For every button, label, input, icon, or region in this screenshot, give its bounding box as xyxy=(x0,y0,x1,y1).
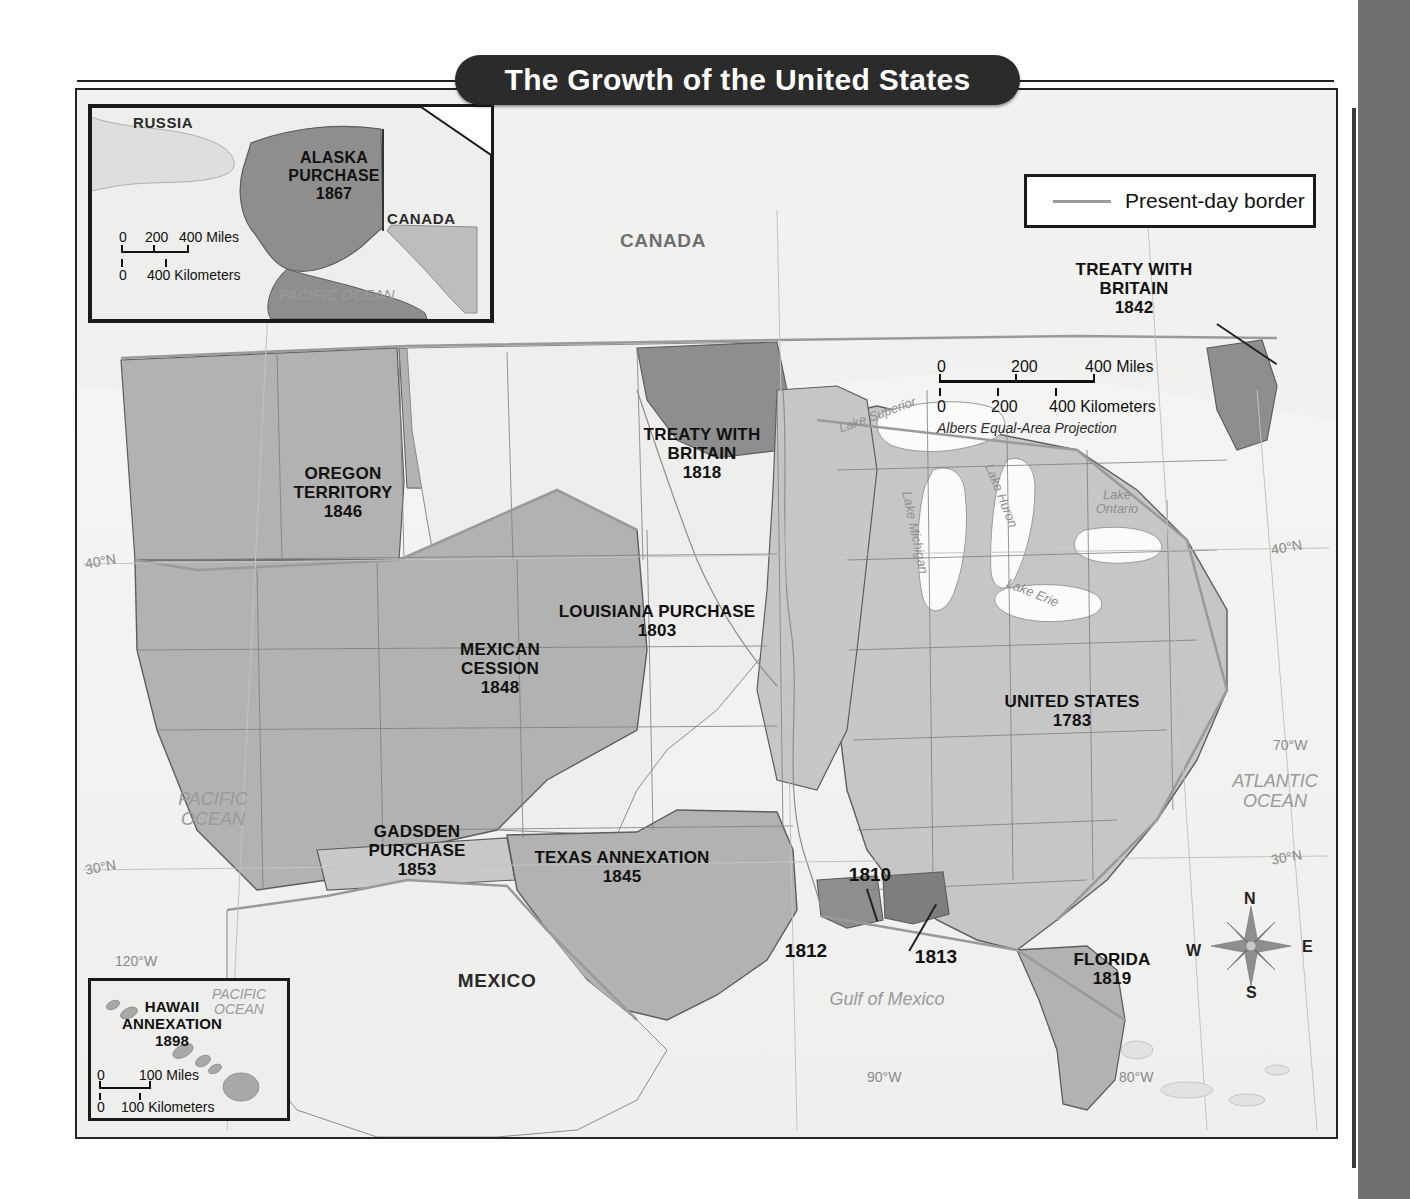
map-legend[interactable]: Present-day border xyxy=(1024,174,1316,228)
compass-south-label: S xyxy=(1246,984,1257,1002)
present-day-border-swatch-icon xyxy=(1053,200,1111,203)
title-rule-right xyxy=(1018,80,1334,82)
compass-rose: N E S W xyxy=(1186,890,1316,1002)
page-edge-divider xyxy=(1352,108,1356,1168)
scale-projection-label: Albers Equal-Area Projection xyxy=(937,420,1117,436)
hawaii-scale-bar: 0 100 Miles 0 100 Kilometers xyxy=(97,1067,247,1115)
hawaii-scale-miles-max: 100 Miles xyxy=(139,1067,199,1083)
alaska-scale-miles-max: 400 Miles xyxy=(179,229,239,245)
main-scale-bar: 0 200 400 Miles 0 200 400 Kilometers Alb… xyxy=(937,358,1167,418)
scale-km-mid: 200 xyxy=(991,398,1018,416)
alaska-scale-miles-mid: 200 xyxy=(145,229,168,245)
scale-km-zero: 0 xyxy=(937,398,946,416)
map-title: The Growth of the United States xyxy=(455,55,1020,105)
hawaii-scale-km-max: 100 Kilometers xyxy=(121,1099,214,1115)
compass-west-label: W xyxy=(1186,942,1201,960)
scale-km-max: 400 Kilometers xyxy=(1049,398,1156,416)
alaska-scale-km-max: 400 Kilometers xyxy=(147,267,240,283)
compass-north-label: N xyxy=(1244,890,1256,908)
alaska-scale-bar: 0 200 400 Miles 0 400 Kilometers xyxy=(119,229,269,287)
right-side-panel xyxy=(1358,0,1410,1199)
legend-label: Present-day border xyxy=(1125,189,1305,213)
inset-map-hawaii[interactable]: PACIFIC OCEAN HAWAII ANNEXATION 1898 0 1… xyxy=(88,978,290,1121)
compass-east-label: E xyxy=(1302,938,1313,956)
alaska-scale-km-zero: 0 xyxy=(119,267,127,283)
scale-miles-max: 400 Miles xyxy=(1085,358,1153,376)
inset-map-alaska[interactable]: RUSSIA CANADA ALASKA PURCHASE 1867 PACIF… xyxy=(88,104,494,323)
hawaii-scale-km-zero: 0 xyxy=(97,1099,105,1115)
title-rule-left xyxy=(77,80,457,82)
alaska-scale-miles-zero: 0 xyxy=(119,229,127,245)
alaska-geometry xyxy=(91,107,491,320)
